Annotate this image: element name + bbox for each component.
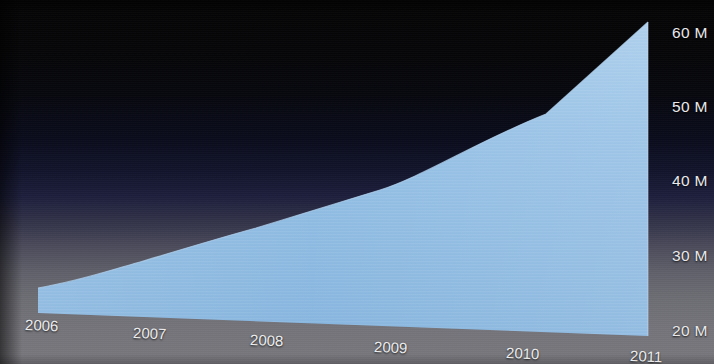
x-axis-tick-2011: 2011 (630, 347, 663, 364)
chart-screenshot: 60 M 50 M 40 M 30 M 20 M 2006 2007 2008 … (0, 0, 714, 364)
area-chart-plot (0, 0, 714, 364)
y-axis-tick-60m: 60 M (672, 24, 708, 42)
x-axis-tick-2010: 2010 (506, 344, 540, 362)
x-axis-tick-2009: 2009 (374, 338, 408, 356)
y-axis-tick-20m: 20 M (672, 322, 708, 340)
x-axis-tick-2007: 2007 (133, 324, 167, 342)
y-axis-tick-30m: 30 M (672, 247, 708, 265)
x-axis-tick-2008: 2008 (250, 331, 284, 349)
y-axis-tick-40m: 40 M (672, 172, 708, 190)
x-axis-tick-2006: 2006 (25, 316, 59, 334)
series-area-group (38, 22, 648, 336)
series-area-texture (38, 22, 648, 336)
y-axis-tick-50m: 50 M (672, 98, 708, 116)
